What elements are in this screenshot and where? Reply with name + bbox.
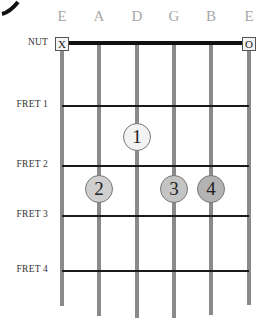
fret-label-2: FRET 2 <box>0 159 48 169</box>
nut-bar <box>58 41 252 45</box>
muted-string-marker: X <box>55 37 69 51</box>
string-name-d: D <box>127 8 147 25</box>
nut-label: NUT <box>0 37 48 47</box>
finger-dot-2: 2 <box>85 175 113 203</box>
fret-line-3 <box>62 215 249 217</box>
string-high-e <box>247 43 251 305</box>
open-string-marker: O <box>242 37 256 51</box>
string-name-b: B <box>201 8 221 25</box>
string-name-high-e: E <box>239 8 259 25</box>
fret-line-1 <box>62 105 249 107</box>
cropped-glyph <box>0 0 30 20</box>
finger-dot-3: 3 <box>160 175 188 203</box>
fret-line-2 <box>62 165 249 167</box>
string-low-e <box>60 43 64 306</box>
string-name-a: A <box>89 8 109 25</box>
string-name-low-e: E <box>52 8 72 25</box>
fret-label-4: FRET 4 <box>0 264 48 274</box>
fret-line-4 <box>62 270 249 272</box>
string-name-g: G <box>164 8 184 25</box>
finger-dot-1: 1 <box>123 123 151 151</box>
fret-label-3: FRET 3 <box>0 209 48 219</box>
fret-label-1: FRET 1 <box>0 99 48 109</box>
finger-dot-4: 4 <box>197 175 225 203</box>
string-d <box>135 43 139 318</box>
